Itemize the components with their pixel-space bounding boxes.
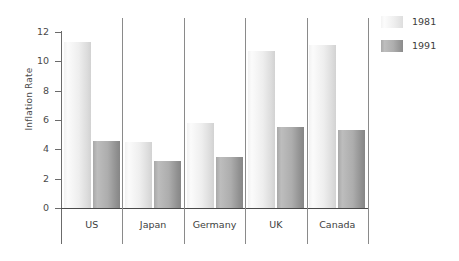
bar <box>187 123 214 208</box>
legend-item[interactable]: 1991 <box>381 40 457 52</box>
bar <box>125 142 152 208</box>
bar <box>93 141 120 208</box>
y-axis-tick-label: 0 <box>27 202 49 213</box>
bar-chart: Inflation Rate 024681012 USJapanGermanyU… <box>0 0 459 261</box>
y-axis-tick-label: 8 <box>27 85 49 96</box>
x-axis-category-label: Japan <box>122 219 183 230</box>
y-axis-tick-label: 4 <box>27 143 49 154</box>
legend-swatch-1991 <box>381 40 403 52</box>
bar <box>277 127 304 208</box>
group-separator <box>245 18 246 244</box>
x-axis-category-label: US <box>61 219 122 230</box>
legend-swatch-1981 <box>381 16 403 28</box>
bar <box>338 130 365 208</box>
y-axis-tick-label: 2 <box>27 173 49 184</box>
group-separator <box>368 18 369 244</box>
legend-label-1991: 1991 <box>412 40 436 52</box>
y-axis-tick-label: 6 <box>27 114 49 125</box>
legend-label-1981: 1981 <box>412 16 436 28</box>
bar <box>154 161 181 208</box>
x-axis-category-label: UK <box>245 219 306 230</box>
x-axis-category-label: Canada <box>307 219 368 230</box>
group-separator <box>184 18 185 244</box>
group-separator <box>307 18 308 244</box>
bar <box>216 157 243 208</box>
legend: 1981 1991 <box>381 16 457 64</box>
bar <box>248 51 275 208</box>
x-axis-category-label: Germany <box>184 219 245 230</box>
bar <box>309 45 336 208</box>
y-axis-line <box>61 31 62 244</box>
x-axis-baseline <box>61 208 368 209</box>
legend-item[interactable]: 1981 <box>381 16 457 28</box>
y-axis-tick-label: 12 <box>27 26 49 37</box>
bar <box>64 42 91 208</box>
group-separator <box>122 18 123 244</box>
y-axis-tick-label: 10 <box>27 55 49 66</box>
